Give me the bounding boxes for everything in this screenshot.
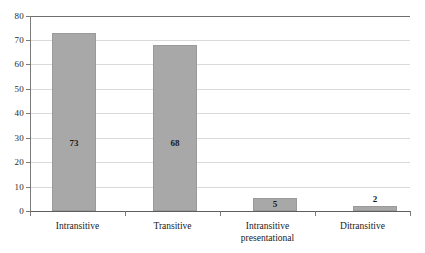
bar-chart: 73 68 5 2 80 70 60 50 40 30 20 10 0 Intr… — [0, 0, 425, 253]
x-tick-mark-1 — [125, 211, 126, 216]
bar-value-transitive: 68 — [154, 139, 196, 148]
x-cat-label-ditransitive: Ditransitive — [315, 220, 410, 232]
y-axis-line — [30, 16, 31, 212]
y-tick-mark-10 — [26, 187, 31, 188]
x-tick-mark-3 — [315, 211, 316, 216]
x-cat-label-transitive-line1: Transitive — [153, 221, 191, 231]
bar-value-intransitive-presentational: 5 — [254, 200, 296, 209]
plot-area: 73 68 5 2 — [30, 16, 410, 211]
y-tick-mark-50 — [26, 89, 31, 90]
x-tick-mark-4 — [410, 211, 411, 216]
y-tick-label-70: 70 — [0, 36, 24, 45]
x-cat-label-intransitive-line1: Intransitive — [56, 221, 99, 231]
x-cat-label-intransitive-presentational: Intransitive presentational — [220, 220, 315, 244]
y-tick-mark-80 — [26, 16, 31, 17]
y-tick-mark-70 — [26, 40, 31, 41]
x-cat-label-intransitive-presentational-line2: presentational — [220, 232, 315, 244]
y-tick-mark-40 — [26, 113, 31, 114]
bar-value-ditransitive: 2 — [354, 195, 396, 204]
y-tick-label-10: 10 — [0, 183, 24, 192]
x-tick-mark-2 — [220, 211, 221, 216]
y-tick-label-40: 40 — [0, 109, 24, 118]
y-tick-mark-60 — [26, 64, 31, 65]
y-tick-label-0: 0 — [0, 207, 24, 216]
y-tick-mark-20 — [26, 162, 31, 163]
x-cat-label-intransitive-presentational-line1: Intransitive — [246, 221, 289, 231]
x-tick-mark-0 — [30, 211, 31, 216]
bar-intransitive-presentational: 5 — [253, 198, 297, 211]
y-tick-mark-30 — [26, 138, 31, 139]
bar-transitive: 68 — [153, 45, 197, 211]
y-tick-label-30: 30 — [0, 134, 24, 143]
y-tick-label-60: 60 — [0, 60, 24, 69]
gridline-80 — [30, 16, 410, 17]
bar-intransitive: 73 — [52, 33, 96, 211]
x-cat-label-intransitive: Intransitive — [30, 220, 125, 232]
y-tick-label-50: 50 — [0, 85, 24, 94]
y-tick-label-20: 20 — [0, 158, 24, 167]
x-cat-label-ditransitive-line1: Ditransitive — [340, 221, 385, 231]
y-tick-label-80: 80 — [0, 12, 24, 21]
x-cat-label-transitive: Transitive — [125, 220, 220, 232]
bar-value-intransitive: 73 — [53, 139, 95, 148]
